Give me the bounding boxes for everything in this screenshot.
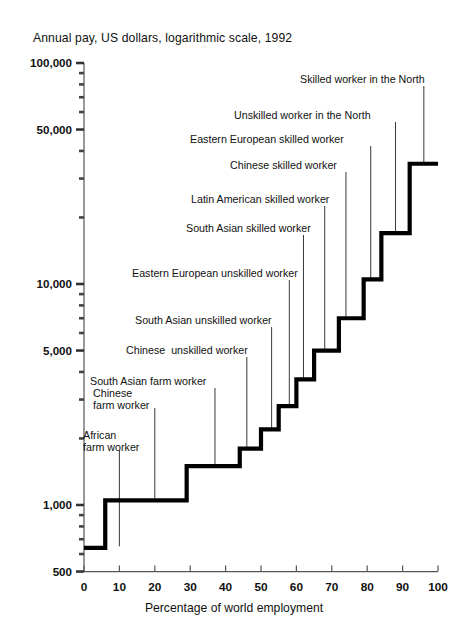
y-axis-tick-label: 50,000 — [0, 123, 72, 136]
chart-figure: Annual pay, US dollars, logarithmic scal… — [0, 0, 468, 629]
x-axis-tick-label: 80 — [347, 580, 387, 594]
step-annotation-label: Unskilled worker in the North — [234, 110, 371, 122]
x-axis-tick-label: 30 — [170, 580, 210, 594]
x-axis-tick-label: 90 — [383, 580, 423, 594]
y-axis-tick-label: 1,000 — [0, 498, 72, 511]
step-annotation-label: South Asian unskilled worker — [135, 315, 272, 327]
step-annotation-label: Eastern European skilled worker — [190, 134, 344, 146]
y-axis-tick-label: 5,000 — [0, 344, 72, 357]
x-axis-tick-label: 10 — [99, 580, 139, 594]
y-axis-tick-label: 10,000 — [0, 277, 72, 290]
step-annotation-label: Chinese farm worker — [93, 388, 149, 411]
x-axis-tick-label: 100 — [418, 580, 458, 594]
x-axis-tick-label: 40 — [206, 580, 246, 594]
step-annotation-label: Skilled worker in the North — [300, 74, 425, 86]
step-annotation-label: South Asian farm worker — [90, 376, 206, 388]
x-axis-tick-label: 20 — [135, 580, 175, 594]
x-axis-title: Percentage of world employment — [0, 601, 468, 615]
x-axis-tick-label: 70 — [312, 580, 352, 594]
y-axis-tick-label: 100,000 — [0, 56, 72, 69]
step-annotation-label: African farm worker — [83, 430, 139, 453]
step-annotation-label: Eastern European unskilled worker — [132, 268, 298, 280]
x-axis-tick-label: 0 — [64, 580, 104, 594]
step-annotation-label: Latin American skilled worker — [191, 194, 329, 206]
y-axis-tick-label: 500 — [0, 565, 72, 578]
step-annotation-label: Chinese unskilled worker — [126, 345, 248, 357]
step-annotation-label: South Asian skilled worker — [186, 223, 311, 235]
x-axis-tick-label: 50 — [241, 580, 281, 594]
x-axis-tick-label: 60 — [276, 580, 316, 594]
step-annotation-label: Chinese skilled worker — [230, 160, 337, 172]
